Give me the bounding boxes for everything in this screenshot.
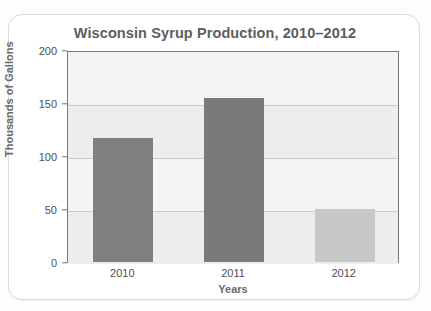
chart-card: Wisconsin Syrup Production, 2010–2012 05… — [8, 14, 420, 300]
bar-2011 — [204, 98, 264, 262]
figure-root: Wisconsin Syrup Production, 2010–2012 05… — [0, 0, 431, 311]
x-tick-label-2010: 2010 — [67, 267, 178, 279]
y-tick-mark — [62, 209, 67, 210]
y-tick-label: 100 — [17, 151, 57, 163]
y-axis-title: Thousands of Gallons — [3, 41, 15, 157]
y-tick-mark — [62, 50, 67, 51]
chart-title: Wisconsin Syrup Production, 2010–2012 — [9, 25, 421, 41]
plot-area — [67, 51, 399, 263]
y-tick-label: 200 — [17, 45, 57, 57]
y-tick-mark — [62, 156, 67, 157]
x-tick-label-2012: 2012 — [288, 267, 399, 279]
y-tick-label: 150 — [17, 98, 57, 110]
bar-2010 — [93, 138, 153, 262]
y-tick-label: 0 — [17, 257, 57, 269]
y-tick-label: 50 — [17, 204, 57, 216]
x-tick-label-2011: 2011 — [178, 267, 289, 279]
y-tick-mark — [62, 262, 67, 263]
y-tick-mark — [62, 103, 67, 104]
x-axis-title: Years — [67, 283, 399, 295]
bar-2012 — [315, 209, 375, 262]
